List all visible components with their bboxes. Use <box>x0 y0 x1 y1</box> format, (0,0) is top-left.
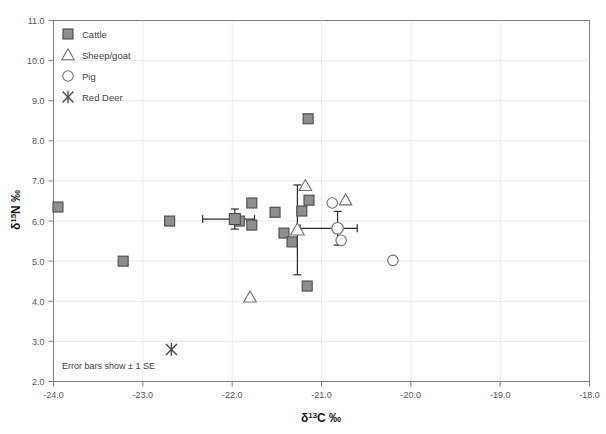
data-point-sheep-goat <box>339 194 352 205</box>
y-axis-ticks: 2.03.04.05.06.07.08.09.010.011.0 <box>27 16 54 387</box>
data-point-cattle <box>247 198 257 208</box>
x-tick-label: -21.0 <box>311 390 332 400</box>
y-axis-title-delta: δ <box>9 223 23 230</box>
data-point-pig <box>327 198 338 209</box>
error-bar-note: Error bars show ± 1 SE <box>62 361 155 371</box>
legend: CattleSheep/goatPigRed Deer <box>62 29 131 104</box>
legend-label-sheep-goat: Sheep/goat <box>82 50 131 61</box>
data-point-cattle <box>53 202 63 212</box>
legend-label-cattle: Cattle <box>82 29 107 40</box>
x-axis-ticks: -24.0-23.0-22.0-21.0-20.0-19.0-18.0 <box>43 382 600 400</box>
svg-text:δ15N ‰: δ15N ‰ <box>9 190 23 230</box>
x-tick-label: -24.0 <box>43 390 64 400</box>
data-point-cattle <box>118 256 128 266</box>
data-point-cattle <box>297 206 307 216</box>
legend-marker-pig <box>63 71 74 82</box>
data-point-sheep-goat <box>244 291 256 302</box>
mean-marker-sheep-goat-mean <box>291 223 305 235</box>
x-axis-title-main: C ‰ <box>317 411 341 425</box>
data-point-cattle <box>287 237 297 247</box>
legend-label-red-deer: Red Deer <box>82 92 123 103</box>
x-tick-label: -22.0 <box>222 390 243 400</box>
y-tick-label: 6.0 <box>32 217 45 227</box>
legend-marker-red-deer <box>63 91 74 104</box>
svg-text:δ13C ‰: δ13C ‰ <box>301 411 341 425</box>
x-tick-label: -18.0 <box>579 390 600 400</box>
y-axis-title: δ15N ‰ <box>9 190 23 230</box>
y-tick-label: 11.0 <box>28 16 45 26</box>
x-tick-label: -23.0 <box>133 390 154 400</box>
y-tick-label: 10.0 <box>27 56 45 66</box>
data-point-red-deer <box>166 343 177 356</box>
y-tick-label: 7.0 <box>32 176 45 186</box>
error-bar-pig-mean <box>300 211 357 245</box>
y-axis-title-main: N ‰ <box>9 190 23 214</box>
mean-marker-pig-mean <box>332 223 344 235</box>
y-tick-label: 8.0 <box>32 136 45 146</box>
x-tick-label: -19.0 <box>490 390 511 400</box>
data-point-cattle <box>304 195 314 205</box>
data-points <box>53 114 398 356</box>
data-point-cattle <box>303 114 313 124</box>
mean-marker-cattle-mean <box>229 214 240 225</box>
data-point-pig <box>388 255 399 266</box>
legend-label-pig: Pig <box>82 71 96 82</box>
x-axis-title-delta: δ <box>301 411 308 425</box>
chart-figure: -24.0-23.0-22.0-21.0-20.0-19.0-18.0 2.03… <box>0 0 606 434</box>
y-tick-label: 5.0 <box>32 257 45 267</box>
data-point-pig <box>336 235 347 246</box>
legend-marker-sheep-goat <box>62 49 75 60</box>
x-axis-title: δ13C ‰ <box>301 411 341 425</box>
gridlines <box>54 21 590 382</box>
y-tick-label: 9.0 <box>32 96 45 106</box>
data-point-cattle <box>302 281 312 291</box>
y-tick-label: 3.0 <box>32 337 45 347</box>
y-tick-label: 4.0 <box>32 297 45 307</box>
data-point-cattle <box>270 207 280 217</box>
data-point-cattle <box>165 216 175 226</box>
x-tick-label: -20.0 <box>401 390 422 400</box>
y-tick-label: 2.0 <box>32 377 45 387</box>
data-point-cattle <box>247 220 257 230</box>
legend-marker-cattle <box>63 29 73 39</box>
